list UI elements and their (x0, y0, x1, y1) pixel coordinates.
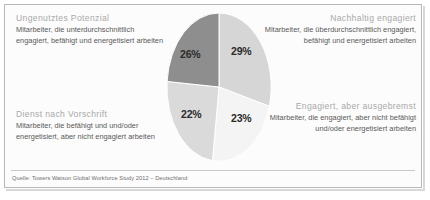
pie-value-label-22: 22% (181, 108, 201, 120)
pie-slice-dienst-nach-vorschrift (167, 81, 219, 160)
figure-frame-shadow-right (423, 6, 425, 191)
quadrant-title-top-right: Nachhaltig engagiert (264, 12, 416, 24)
pie-value-label-29: 29% (231, 45, 251, 57)
quadrant-title-bottom-right: Engagiert, aber ausgebremst (264, 100, 416, 112)
quadrant-title-bottom-left: Dienst nach Vorschrift (16, 108, 181, 120)
quadrant-label-nachhaltig-engagiert: Nachhaltig engagiert Mitarbeiter, die üb… (264, 12, 416, 46)
figure-frame-shadow-bottom (6, 189, 425, 191)
pie-value-label-23: 23% (231, 112, 251, 124)
quadrant-label-ungenutztes-potenzial: Ungenutztes Potenzial Mitarbeiter, die u… (16, 12, 166, 46)
pie-chart (167, 13, 271, 161)
quadrant-body-top-right: Mitarbeiter, die überdurchschnittlich en… (264, 25, 416, 46)
quadrant-body-top-left: Mitarbeiter, die unterdurchschnittlich e… (16, 25, 166, 46)
pie-chart-svg (167, 13, 271, 161)
quadrant-label-dienst-nach-vorschrift: Dienst nach Vorschrift Mitarbeiter, die … (16, 108, 181, 142)
pie-value-label-26: 26% (180, 48, 200, 60)
source-note: Quelle: Towers Watson Global Workforce S… (12, 175, 187, 181)
quadrant-body-bottom-right: Mitarbeiter, die engagiert, aber nicht b… (264, 113, 416, 134)
quadrant-title-top-left: Ungenutztes Potenzial (16, 12, 166, 24)
quadrant-body-bottom-left: Mitarbeiter, die befähigt und und/oder e… (16, 121, 181, 142)
engagement-pie-figure: Ungenutztes Potenzial Mitarbeiter, die u… (0, 0, 430, 200)
footer-divider (11, 170, 415, 171)
quadrant-label-engagiert-aber-ausgebremst: Engagiert, aber ausgebremst Mitarbeiter,… (264, 100, 416, 134)
